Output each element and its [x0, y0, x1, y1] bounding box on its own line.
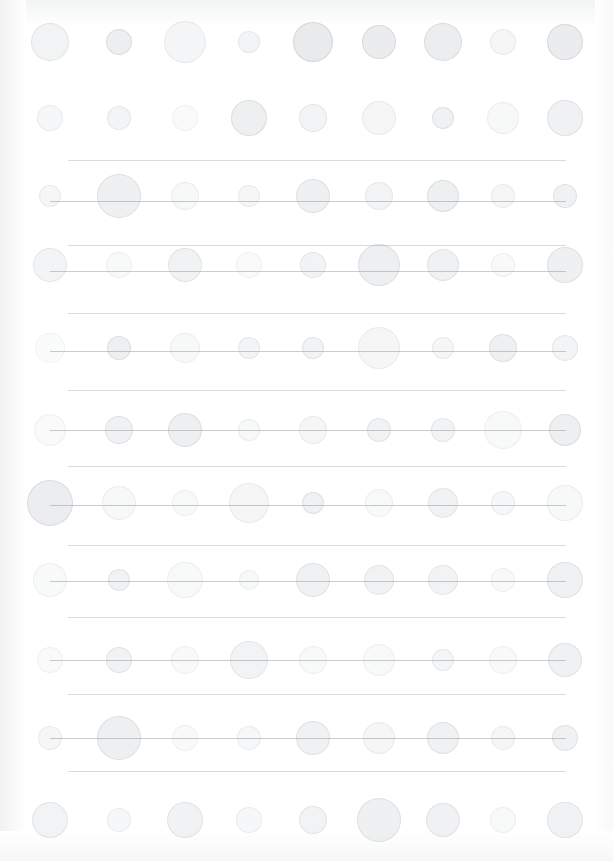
data-point — [424, 23, 462, 61]
data-point — [107, 808, 131, 832]
data-point — [106, 252, 132, 278]
data-point — [32, 802, 68, 838]
data-point — [33, 563, 67, 597]
data-point — [489, 334, 517, 362]
grid-rule — [68, 160, 566, 161]
data-point — [229, 483, 269, 523]
data-point — [299, 806, 327, 834]
data-point — [238, 185, 260, 207]
grid-rule — [68, 466, 566, 467]
data-point — [172, 490, 198, 516]
data-point — [33, 248, 67, 282]
data-point — [553, 184, 577, 208]
data-point — [491, 184, 515, 208]
data-point — [171, 646, 199, 674]
data-point — [431, 418, 455, 442]
grid-rule — [68, 313, 566, 314]
data-point — [362, 25, 396, 59]
data-point — [237, 726, 261, 750]
data-point — [102, 486, 136, 520]
data-point — [37, 647, 63, 673]
data-point — [491, 568, 515, 592]
data-point — [167, 802, 203, 838]
data-point — [238, 337, 260, 359]
data-point — [107, 336, 131, 360]
data-point — [428, 488, 458, 518]
data-point — [489, 646, 517, 674]
grid-rule — [68, 694, 566, 695]
data-point — [363, 644, 395, 676]
data-point — [547, 802, 583, 838]
data-point — [236, 252, 262, 278]
data-point — [484, 411, 522, 449]
data-point — [172, 105, 198, 131]
data-point — [39, 185, 61, 207]
data-point — [296, 179, 330, 213]
grid-rule — [68, 771, 566, 772]
data-point — [428, 565, 458, 595]
data-point — [97, 716, 141, 760]
data-point — [35, 333, 65, 363]
data-point — [302, 492, 324, 514]
data-point — [106, 647, 132, 673]
data-point — [358, 327, 400, 369]
data-point — [426, 803, 460, 837]
data-point — [427, 249, 459, 281]
data-point — [168, 248, 202, 282]
data-point — [367, 418, 391, 442]
data-point — [552, 335, 578, 361]
data-point — [491, 491, 515, 515]
grid-rule — [68, 617, 566, 618]
data-point — [27, 480, 73, 526]
data-point — [31, 23, 69, 61]
data-point — [432, 337, 454, 359]
data-point — [296, 563, 330, 597]
data-point — [427, 180, 459, 212]
data-point — [97, 174, 141, 218]
data-point — [230, 641, 268, 679]
data-point — [364, 565, 394, 595]
data-point — [167, 562, 203, 598]
data-point — [365, 489, 393, 517]
data-point — [107, 106, 131, 130]
data-point — [302, 337, 324, 359]
grid-rule — [68, 390, 566, 391]
data-point — [238, 31, 260, 53]
data-point — [548, 643, 582, 677]
data-point — [170, 333, 200, 363]
data-point — [547, 100, 583, 136]
grid-rule — [68, 245, 566, 246]
data-point — [491, 726, 515, 750]
data-point — [299, 416, 327, 444]
data-point — [236, 807, 262, 833]
data-point — [487, 102, 519, 134]
data-point — [299, 104, 327, 132]
grid-rule — [68, 545, 566, 546]
data-point — [365, 182, 393, 210]
data-point — [491, 253, 515, 277]
data-point — [547, 485, 583, 521]
data-point — [358, 244, 400, 286]
data-point — [296, 721, 330, 755]
data-point — [172, 725, 198, 751]
data-point — [171, 182, 199, 210]
data-point — [362, 101, 396, 135]
data-point — [432, 107, 454, 129]
data-point — [37, 105, 63, 131]
data-point — [164, 21, 206, 63]
data-point — [427, 722, 459, 754]
data-point — [357, 798, 401, 842]
data-point — [105, 416, 133, 444]
data-point — [293, 22, 333, 62]
plot-canvas — [0, 0, 613, 861]
data-point — [363, 722, 395, 754]
data-point — [238, 419, 260, 441]
data-point — [34, 414, 66, 446]
data-point — [490, 807, 516, 833]
data-point — [299, 646, 327, 674]
data-point — [547, 562, 583, 598]
data-point — [549, 414, 581, 446]
data-point — [108, 569, 130, 591]
data-point — [547, 24, 583, 60]
data-point — [432, 649, 454, 671]
